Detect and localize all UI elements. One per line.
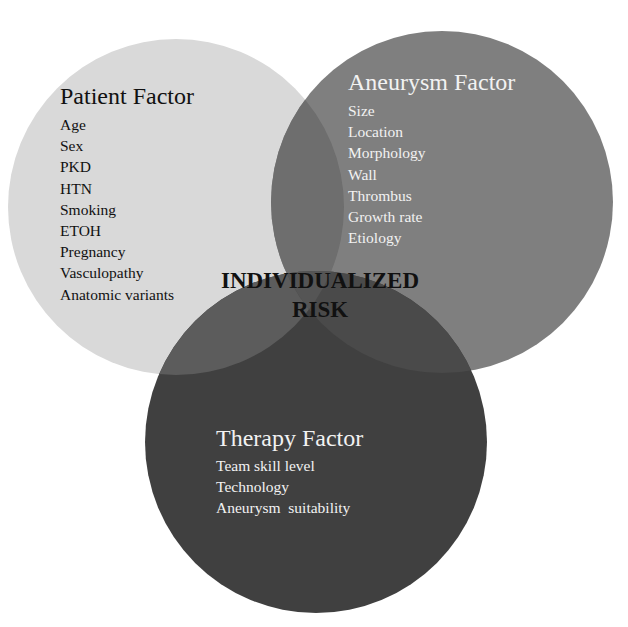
list-item: Anatomic variants bbox=[60, 284, 194, 305]
aneurysm-factor-list: Size Location Morphology Wall Thrombus G… bbox=[348, 100, 515, 248]
therapy-factor-title: Therapy Factor bbox=[216, 424, 363, 452]
list-item: Growth rate bbox=[348, 206, 515, 227]
patient-factor-group: Patient Factor Age Sex PKD HTN Smoking E… bbox=[60, 82, 194, 305]
list-item: Sex bbox=[60, 135, 194, 156]
list-item: Aneurysm suitability bbox=[216, 497, 363, 518]
aneurysm-factor-group: Aneurysm Factor Size Location Morphology… bbox=[348, 68, 515, 248]
list-item: Smoking bbox=[60, 199, 194, 220]
patient-factor-title: Patient Factor bbox=[60, 82, 194, 110]
list-item: Pregnancy bbox=[60, 241, 194, 262]
list-item: Vasculopathy bbox=[60, 262, 194, 283]
list-item: Technology bbox=[216, 476, 363, 497]
list-item: Size bbox=[348, 100, 515, 121]
list-item: Age bbox=[60, 114, 194, 135]
center-label-line-2: RISK bbox=[190, 295, 450, 324]
center-label-line-1: INDIVIDUALIZED bbox=[190, 266, 450, 295]
list-item: HTN bbox=[60, 178, 194, 199]
list-item: Team skill level bbox=[216, 455, 363, 476]
list-item: Morphology bbox=[348, 142, 515, 163]
list-item: Location bbox=[348, 121, 515, 142]
list-item: ETOH bbox=[60, 220, 194, 241]
list-item: Wall bbox=[348, 164, 515, 185]
therapy-factor-group: Therapy Factor Team skill level Technolo… bbox=[216, 424, 363, 519]
list-item: PKD bbox=[60, 156, 194, 177]
aneurysm-factor-title: Aneurysm Factor bbox=[348, 68, 515, 96]
therapy-factor-list: Team skill level Technology Aneurysm sui… bbox=[216, 455, 363, 519]
list-item: Etiology bbox=[348, 227, 515, 248]
list-item: Thrombus bbox=[348, 185, 515, 206]
individualized-risk-label: INDIVIDUALIZED RISK bbox=[190, 266, 450, 324]
patient-factor-list: Age Sex PKD HTN Smoking ETOH Pregnancy V… bbox=[60, 114, 194, 305]
